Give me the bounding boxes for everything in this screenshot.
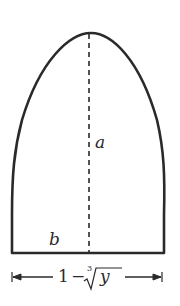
arch-outline [12,33,164,253]
base-label: b [49,229,60,249]
expr-radicand: y [100,266,110,286]
arrowhead-right-icon [153,274,161,280]
expr-one: 1 [58,266,69,286]
expr-minus: − [71,266,85,286]
base-width-expression: 1 − 3 y [55,264,125,290]
expr-root-index: 3 [87,264,92,273]
arch-diagram [0,0,180,306]
arrowhead-left-icon [13,274,21,280]
height-label: a [95,132,105,152]
